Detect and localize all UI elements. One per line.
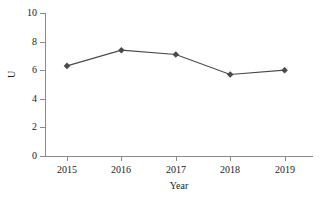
data-point-marker [64, 63, 71, 70]
data-point-marker [227, 71, 234, 78]
x-axis-title: Year [45, 180, 313, 191]
data-point-marker [118, 47, 125, 54]
data-point-marker [281, 67, 288, 74]
data-series-layer [0, 0, 330, 201]
line-chart: U 10 8 6 4 2 0 2015 2016 2017 2018 2019 … [0, 0, 330, 201]
data-point-marker [173, 51, 180, 58]
